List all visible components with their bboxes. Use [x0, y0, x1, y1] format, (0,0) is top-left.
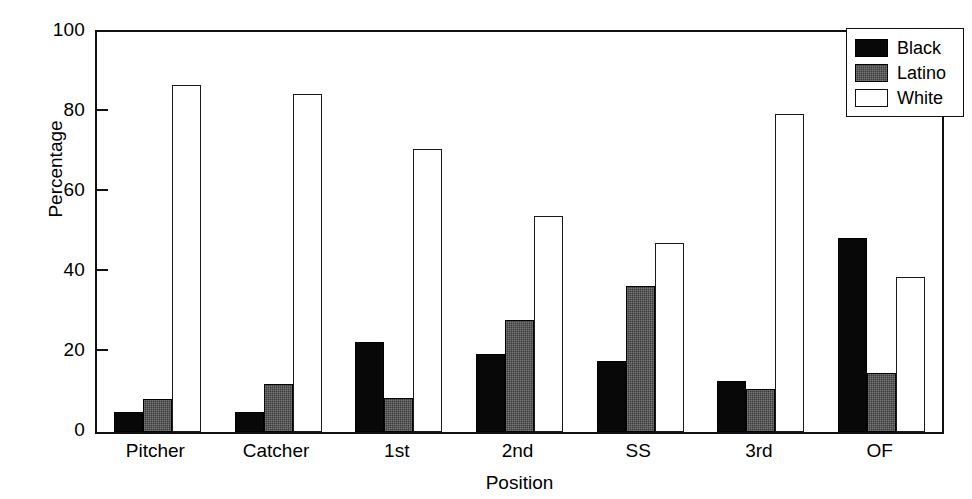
bar-pitcher-latino — [143, 399, 172, 432]
bar-1st-black — [355, 342, 384, 432]
bar-of-white — [896, 277, 925, 432]
x-axis-tick-labels: PitcherCatcher1st2ndSS3rdOF — [95, 440, 944, 466]
bar-chart-figure: Percentage 020406080100 PitcherCatcher1s… — [0, 0, 972, 499]
x-axis-tick-label-1st: 1st — [384, 440, 409, 462]
x-axis-tick-label-3rd: 3rd — [745, 440, 772, 462]
y-axis-tick-label: 0 — [74, 419, 85, 441]
bar-ss-black — [597, 361, 626, 432]
x-axis-title: Position — [95, 472, 944, 494]
bar-pitcher-black — [114, 412, 143, 432]
bar-2nd-white — [534, 216, 563, 432]
bar-catcher-latino — [264, 384, 293, 432]
legend-label: Black — [897, 39, 941, 57]
x-axis-tick-label-2nd: 2nd — [502, 440, 534, 462]
bar-catcher-black — [235, 412, 264, 432]
bar-ss-white — [655, 243, 684, 432]
legend-swatch-latino — [855, 64, 888, 82]
legend-item-white: White — [855, 85, 956, 110]
legend-swatch-black — [855, 39, 888, 57]
y-axis-tick-label: 40 — [63, 259, 85, 281]
legend: BlackLatinoWhite — [846, 28, 964, 117]
x-axis-tick-label-of: OF — [866, 440, 892, 462]
y-axis-tick-label: 80 — [63, 99, 85, 121]
legend-label: White — [897, 89, 943, 107]
legend-swatch-white — [855, 89, 888, 107]
x-axis-tick-label-catcher: Catcher — [243, 440, 310, 462]
plot-area — [95, 30, 944, 434]
bar-pitcher-white — [172, 85, 201, 432]
x-axis-tick-label-pitcher: Pitcher — [126, 440, 185, 462]
legend-item-latino: Latino — [855, 60, 956, 85]
bar-catcher-white — [293, 94, 322, 432]
bar-2nd-latino — [505, 320, 534, 432]
y-axis-tick-labels: 020406080100 — [40, 30, 85, 430]
bar-ss-latino — [626, 286, 655, 432]
bars-layer — [97, 32, 942, 432]
legend-label: Latino — [897, 64, 946, 82]
bar-3rd-black — [717, 381, 746, 432]
legend-item-black: Black — [855, 35, 956, 60]
y-axis-tick-label: 20 — [63, 339, 85, 361]
bar-1st-latino — [384, 398, 413, 432]
y-axis-tick-label: 60 — [63, 179, 85, 201]
bar-2nd-black — [476, 354, 505, 432]
bar-3rd-latino — [746, 389, 775, 432]
bar-3rd-white — [775, 114, 804, 432]
bar-of-black — [838, 238, 867, 432]
x-axis-tick-label-ss: SS — [626, 440, 651, 462]
bar-1st-white — [413, 149, 442, 432]
y-axis-tick-label: 100 — [53, 19, 85, 41]
bar-of-latino — [867, 373, 896, 432]
